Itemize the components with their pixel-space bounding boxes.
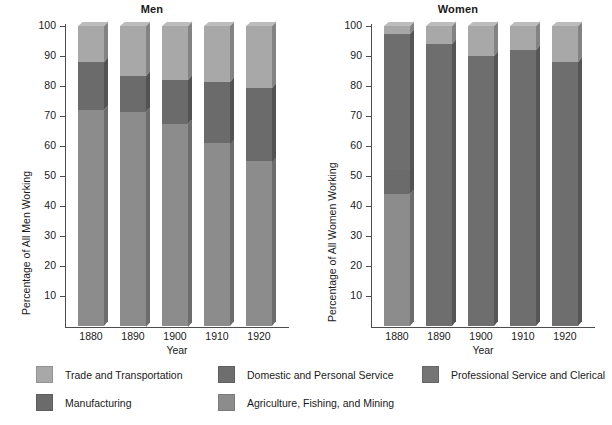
y-tick-mark [366, 206, 371, 207]
bar-top-face [426, 22, 457, 26]
bar-segment [204, 143, 230, 326]
bar-top-face [246, 22, 277, 26]
bar-segment [510, 26, 536, 50]
y-tick-mark [60, 236, 65, 237]
y-tick-mark [366, 296, 371, 297]
bar-segment [162, 80, 188, 124]
bar-segment-side [410, 189, 414, 326]
y-tick-label: 80 [308, 79, 362, 91]
chart-legend: Trade and TransportationDomestic and Per… [0, 362, 612, 422]
legend-label: Domestic and Personal Service [247, 369, 393, 381]
bar-top-face [162, 22, 193, 26]
bar-segment-side [104, 105, 108, 326]
women-x-axis-title: Year [372, 344, 594, 356]
bar-top-face [468, 22, 499, 26]
bar-segment [162, 124, 188, 327]
bar-segment [552, 26, 578, 62]
x-tick-label: 1910 [197, 330, 237, 342]
bar-segment-side [146, 21, 150, 75]
bar-segment-side [494, 21, 498, 56]
men-y-axis-title: Percentage of All Men Working [20, 171, 32, 315]
y-tick-mark [366, 176, 371, 177]
legend-item[interactable]: Trade and Transportation [36, 366, 183, 383]
bar-segment-side [230, 138, 234, 326]
bar-segment [204, 26, 230, 82]
women-y-axis-line [371, 24, 372, 328]
bar-segment [426, 26, 452, 44]
y-tick-mark [60, 206, 65, 207]
y-tick-label: 90 [308, 49, 362, 61]
bar-column [204, 26, 230, 326]
bar-segment-side [536, 45, 540, 326]
legend-item[interactable]: Domestic and Personal Service [218, 366, 393, 383]
bar-segment [78, 110, 104, 326]
y-tick-mark [366, 146, 371, 147]
x-tick-label: 1900 [155, 330, 195, 342]
x-tick-label: 1910 [503, 330, 543, 342]
y-tick-mark [366, 266, 371, 267]
bar-column [120, 26, 146, 326]
y-tick-mark [366, 236, 371, 237]
x-tick-label: 1890 [419, 330, 459, 342]
bar-segment-side [578, 57, 582, 326]
men-y-axis-line [65, 24, 66, 328]
legend-item[interactable]: Agriculture, Fishing, and Mining [218, 394, 394, 411]
legend-label: Trade and Transportation [65, 369, 183, 381]
bar-segment-side [494, 51, 498, 326]
y-tick-label: 70 [308, 109, 362, 121]
bar-segment [120, 26, 146, 76]
y-tick-mark [366, 86, 371, 87]
bar-segment [426, 44, 452, 326]
bar-segment-side [272, 21, 276, 87]
y-tick-mark [60, 116, 65, 117]
y-tick-label: 60 [2, 139, 56, 151]
y-tick-mark [366, 116, 371, 117]
x-tick-label: 1920 [239, 330, 279, 342]
panel-men: Men 102030405060708090100 18801890190019… [2, 0, 302, 352]
legend-swatch [36, 366, 53, 383]
bar-column [384, 26, 410, 326]
legend-label: Agriculture, Fishing, and Mining [247, 397, 394, 409]
bar-segment-side [104, 57, 108, 110]
bar-segment [246, 26, 272, 88]
men-x-axis-line [65, 327, 289, 328]
bar-segment-side [272, 83, 276, 161]
x-tick-label: 1920 [545, 330, 585, 342]
x-tick-label: 1880 [377, 330, 417, 342]
bar-segment [246, 88, 272, 162]
bar-segment [468, 56, 494, 326]
bar-segment [384, 34, 410, 171]
legend-label: Manufacturing [65, 397, 132, 409]
bar-segment [384, 26, 410, 34]
bar-top-face [510, 22, 541, 26]
panel-women-title: Women [308, 3, 608, 15]
legend-swatch [218, 394, 235, 411]
bar-segment [552, 62, 578, 326]
bar-column [468, 26, 494, 326]
bar-segment-side [578, 21, 582, 62]
bar-segment [510, 50, 536, 326]
bar-segment-side [536, 21, 540, 50]
legend-item[interactable]: Manufacturing [36, 394, 132, 411]
panel-men-title: Men [2, 3, 302, 15]
legend-item[interactable]: Professional Service and Clerical [422, 366, 605, 383]
x-tick-label: 1890 [113, 330, 153, 342]
y-tick-mark [60, 176, 65, 177]
y-tick-mark [60, 296, 65, 297]
y-tick-label: 90 [2, 49, 56, 61]
x-tick-label: 1880 [71, 330, 111, 342]
bar-segment [246, 161, 272, 326]
bar-top-face [552, 22, 583, 26]
bar-segment-side [188, 119, 192, 326]
men-x-axis-title: Year [66, 344, 288, 356]
legend-swatch [218, 366, 235, 383]
bar-segment [384, 170, 410, 194]
bar-segment-side [452, 39, 456, 326]
y-tick-label: 70 [2, 109, 56, 121]
bar-top-face [78, 22, 109, 26]
bar-column [246, 26, 272, 326]
stacked-bar-chart-figure: Men 102030405060708090100 18801890190019… [0, 0, 612, 425]
bar-column [426, 26, 452, 326]
y-tick-mark [60, 86, 65, 87]
y-tick-mark [60, 56, 65, 57]
